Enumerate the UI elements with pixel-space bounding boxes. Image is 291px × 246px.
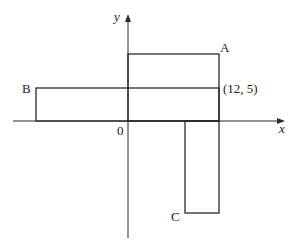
x-axis-label: x: [278, 121, 285, 136]
origin-label: 0: [117, 123, 124, 138]
label-a: A: [220, 40, 230, 55]
coordinate-diagram: y x 0 A B C (12, 5): [0, 0, 291, 246]
y-axis: [125, 14, 131, 238]
diagram-canvas: y x 0 A B C (12, 5): [0, 0, 291, 246]
rectangle-c: [185, 121, 219, 213]
y-axis-label: y: [112, 9, 120, 24]
y-axis-arrow-icon: [125, 14, 131, 22]
point-label: (12, 5): [223, 81, 258, 96]
label-b: B: [22, 81, 31, 96]
label-c: C: [171, 209, 180, 224]
